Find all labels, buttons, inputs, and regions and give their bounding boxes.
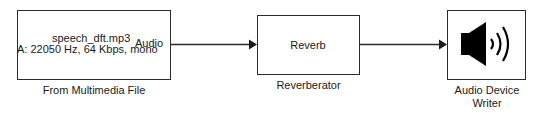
audio-device-writer-block[interactable] [447, 10, 526, 80]
arrowhead-icon [439, 40, 447, 50]
wire-reverb-to-writer[interactable] [359, 40, 447, 50]
audio-device-writer-label-line1: Audio Device [440, 84, 534, 97]
audio-device-writer-label: Audio Device Writer [440, 84, 534, 110]
reverberator-label: Reverberator [257, 79, 360, 92]
block-reverb-text: Reverb [258, 39, 358, 51]
reverberator-block[interactable]: Reverb [257, 15, 360, 75]
speaker-icon [448, 11, 524, 78]
wire-file-to-reverb[interactable] [170, 40, 257, 50]
arrowhead-icon [249, 40, 257, 50]
from-multimedia-file-block[interactable]: speech_dft.mp3 A: 22050 Hz, 64 Kbps, mon… [17, 10, 171, 80]
from-multimedia-file-label: From Multimedia File [17, 84, 171, 97]
output-port-label: Audio [135, 37, 163, 49]
audio-device-writer-label-line2: Writer [440, 97, 534, 110]
